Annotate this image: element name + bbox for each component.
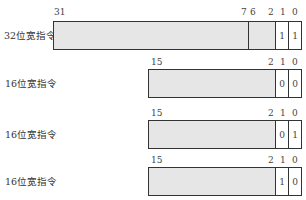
bit-label-31: 31	[54, 7, 65, 17]
bit-label-1: 1	[280, 57, 286, 67]
bit-1-value: 0	[276, 79, 288, 89]
bit-label-0: 0	[292, 7, 298, 17]
bit-0-value: 1	[289, 31, 301, 41]
bit-label-0: 0	[292, 57, 298, 67]
field-bits-31-7	[54, 22, 248, 49]
row-name: 16位宽指令	[5, 129, 57, 141]
instruction-field-box: 0 1	[148, 120, 302, 149]
bit-label-2: 2	[268, 57, 274, 67]
row-name: 16位宽指令	[5, 176, 57, 188]
row-name: 32位宽指令	[4, 30, 56, 42]
bit-label-15: 15	[151, 108, 162, 118]
bit-label-15: 15	[151, 57, 162, 67]
field-bits-15-2	[149, 168, 275, 195]
field-bit-1: 0	[275, 70, 288, 97]
bit-label-2: 2	[268, 7, 274, 17]
bit-label-6: 6	[250, 7, 256, 17]
bit-label-15: 15	[151, 155, 162, 165]
bit-1-value: 1	[276, 177, 288, 187]
bit-1-value: 1	[276, 31, 288, 41]
field-bit-0: 0	[288, 168, 301, 195]
field-bit-1: 0	[275, 121, 288, 148]
field-bit-0: 1	[288, 121, 301, 148]
field-bit-1: 1	[275, 168, 288, 195]
instruction-field-box: 1 0	[148, 167, 302, 196]
bit-0-value: 0	[289, 79, 301, 89]
bit-label-0: 0	[292, 155, 298, 165]
field-bits-15-2	[149, 70, 275, 97]
bit-label-7: 7	[241, 7, 247, 17]
field-bits-15-2	[149, 121, 275, 148]
bit-label-2: 2	[268, 108, 274, 118]
bit-0-value: 1	[289, 130, 301, 140]
bit-label-1: 1	[280, 7, 286, 17]
bit-label-1: 1	[280, 108, 286, 118]
row-name: 16位宽指令	[5, 78, 57, 90]
bit-1-value: 0	[276, 130, 288, 140]
bit-0-value: 0	[289, 177, 301, 187]
bit-label-0: 0	[292, 108, 298, 118]
field-bits-6-2	[248, 22, 275, 49]
instruction-field-box: 1 1	[53, 21, 302, 50]
field-bit-0: 1	[288, 22, 301, 49]
bit-label-1: 1	[280, 155, 286, 165]
field-bit-1: 1	[275, 22, 288, 49]
field-bit-0: 0	[288, 70, 301, 97]
bit-label-2: 2	[268, 155, 274, 165]
instruction-field-box: 0 0	[148, 69, 302, 98]
